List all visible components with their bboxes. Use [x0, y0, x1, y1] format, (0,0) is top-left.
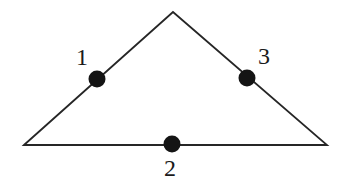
point-label-1: 1: [76, 45, 88, 69]
point-marker-3: [239, 70, 256, 87]
point-label-3: 3: [258, 44, 270, 68]
point-marker-1: [89, 71, 106, 88]
triangle-outline: [24, 12, 327, 145]
point-label-2: 2: [164, 156, 176, 180]
diagram-canvas: 1 2 3: [0, 0, 343, 190]
point-marker-2: [164, 136, 181, 153]
